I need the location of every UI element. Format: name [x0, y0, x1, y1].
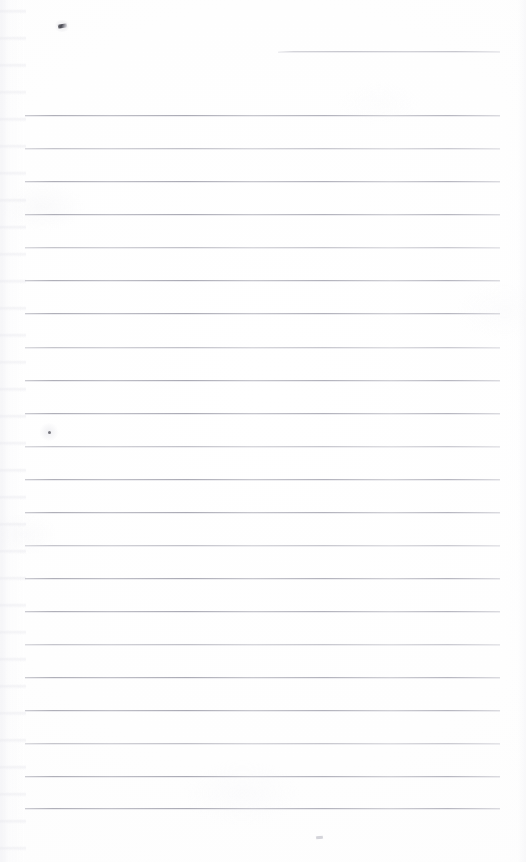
scanned-page	[0, 0, 526, 862]
paper-surface	[0, 0, 526, 862]
